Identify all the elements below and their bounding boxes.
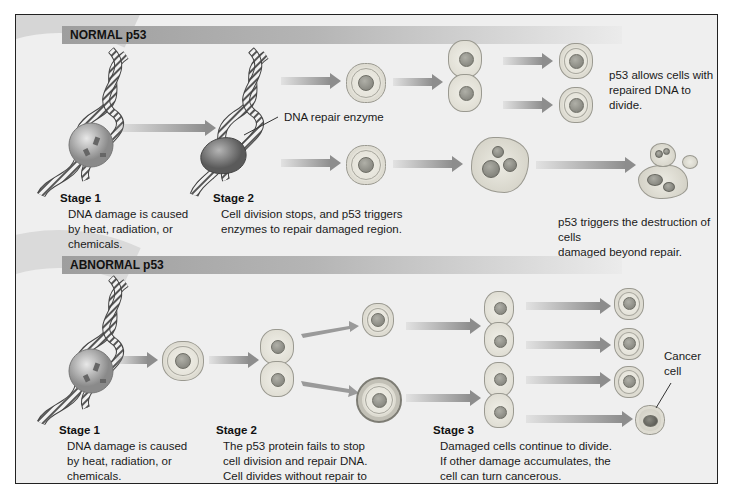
abnormal-stage3-title: Stage 3 xyxy=(433,424,474,436)
diagram-frame: NORMAL p53 DNA repair enzyme xyxy=(15,14,718,484)
abnormal-stage3-text: Damaged cells continue to divide. If oth… xyxy=(440,439,612,484)
cancer-cell-label: Cancer cell xyxy=(664,349,701,379)
cancer-cell-leader-line xyxy=(16,15,718,484)
abnormal-stage2-text: The p53 protein fails to stop cell divis… xyxy=(223,439,367,484)
abnormal-stage1-title: Stage 1 xyxy=(59,424,100,436)
abnormal-stage1-text: DNA damage is caused by heat, radiation,… xyxy=(67,439,187,484)
abnormal-stage2-title: Stage 2 xyxy=(216,424,257,436)
